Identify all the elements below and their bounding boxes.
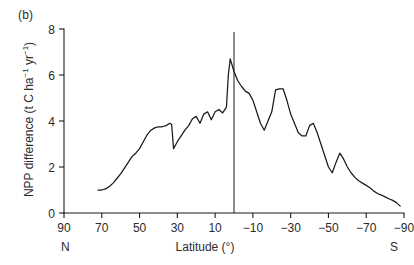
y-axis-tick-label: 6 bbox=[48, 69, 55, 83]
x-axis-tick-label: 10 bbox=[208, 221, 222, 235]
y-axis-label: NPP difference (t C ha−1 yr−1) bbox=[21, 30, 36, 210]
hemisphere-label-north: N bbox=[61, 240, 70, 254]
x-axis-tick-label: −30 bbox=[280, 221, 301, 235]
y-axis-label-exponent-2: −1 bbox=[21, 46, 30, 55]
x-axis-tick-label: −10 bbox=[243, 221, 264, 235]
chart-plot-area: 024689070503010−10−30−50−70−90 bbox=[0, 0, 414, 265]
y-axis-tick-label: 2 bbox=[48, 161, 55, 175]
x-axis-label: Latitude (°) bbox=[60, 240, 350, 254]
x-axis-tick-label: 30 bbox=[171, 221, 185, 235]
figure-panel-b: (b) NPP difference (t C ha−1 yr−1) Latit… bbox=[0, 0, 414, 265]
y-axis-tick-label: 8 bbox=[48, 23, 55, 37]
data-series-line bbox=[98, 59, 400, 206]
panel-label: (b) bbox=[18, 8, 33, 22]
y-axis-label-mid: yr bbox=[22, 55, 36, 68]
x-axis-tick-label: −90 bbox=[394, 221, 414, 235]
y-axis-label-suffix: ) bbox=[22, 42, 36, 46]
hemisphere-label-south: S bbox=[390, 240, 398, 254]
y-axis-label-exponent-1: −1 bbox=[21, 68, 30, 77]
y-axis-tick-label: 4 bbox=[48, 115, 55, 129]
x-axis-tick-label: 70 bbox=[95, 221, 109, 235]
x-axis-tick-label: −70 bbox=[356, 221, 377, 235]
x-axis-tick-label: 50 bbox=[133, 221, 147, 235]
x-axis-tick-label: 90 bbox=[57, 221, 71, 235]
y-axis-label-prefix: NPP difference (t C ha bbox=[22, 77, 36, 197]
y-axis-tick-label: 0 bbox=[48, 207, 55, 221]
x-axis-tick-label: −50 bbox=[318, 221, 339, 235]
